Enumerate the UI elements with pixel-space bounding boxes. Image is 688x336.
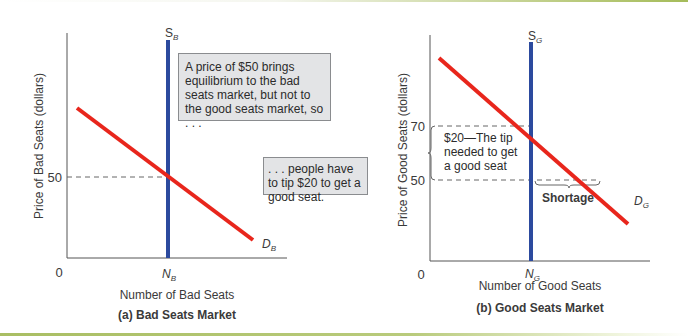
panel-b-y-axis-label: Price of Good Seats (dollars) [396, 73, 410, 227]
panel-a-x-axis-label: Number of Bad Seats [120, 288, 235, 302]
panel-b-x-axis-label: Number of Good Seats [479, 279, 602, 293]
panel-b-price-tick-50: 50 [411, 173, 425, 188]
panel-a-supply-label: SB [165, 26, 179, 42]
panel-a-demand-curve [77, 108, 253, 240]
panel-a-origin-label: 0 [55, 265, 62, 280]
panel-b-demand-label: DG [634, 194, 649, 210]
panel-b-origin-label: 0 [417, 267, 424, 282]
tip-amount-note: $20—The tip needed to get a good seat [444, 131, 524, 173]
panel-a-price-tick-50: 50 [48, 170, 62, 185]
panel-a-demand-label: DB [262, 237, 277, 253]
equilibrium-callout: A price of $50 brings equilibrium to the… [178, 53, 331, 121]
panel-a-caption: (a) Bad Seats Market [118, 308, 236, 322]
panel-b-tip-brace [428, 126, 435, 180]
panel-a-quantity-tick: NB [162, 267, 177, 283]
panel-b-price-tick-70: 70 [411, 119, 425, 134]
panel-a-y-axis-label: Price of Bad Seats (dollars) [32, 73, 46, 219]
tip-callout: . . . people have to tip $20 to get a go… [263, 157, 368, 195]
panel-b-caption: (b) Good Seats Market [476, 301, 603, 315]
panel-b-shortage-brace [535, 181, 600, 188]
panel-b-shortage-label: Shortage [542, 191, 594, 205]
panel-b-supply-label: SG [528, 29, 542, 45]
